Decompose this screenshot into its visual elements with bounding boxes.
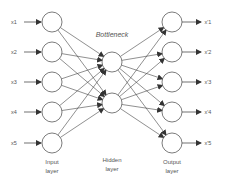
hidden-node: [102, 52, 122, 72]
output-node: [162, 12, 182, 32]
input-node: [42, 133, 62, 153]
input-layer-label-2: layer: [45, 168, 58, 174]
output-node: [162, 133, 182, 153]
hidden-layer-label-2: layer: [105, 166, 118, 172]
output-label: x'3: [205, 79, 212, 85]
hidden-node: [102, 93, 122, 113]
output-node: [162, 42, 182, 62]
output-label: x'5: [205, 140, 212, 146]
hidden-layer-label-1: Hidden: [102, 157, 121, 163]
output-label: x'1: [205, 19, 212, 25]
input-label: x1: [11, 19, 17, 25]
edge: [121, 65, 162, 79]
input-label: x3: [11, 79, 17, 85]
output-label: x'2: [205, 49, 212, 55]
edge: [61, 85, 102, 99]
output-labels: x'1x'2x'3x'4x'5: [205, 19, 212, 146]
input-node: [42, 72, 62, 92]
edge: [61, 65, 102, 79]
output-label: x'4: [205, 109, 212, 115]
edge: [121, 85, 162, 99]
edge: [58, 30, 106, 95]
output-node: [162, 102, 182, 122]
input-label: x4: [11, 109, 17, 115]
edge: [118, 70, 166, 135]
input-layer-label-1: Input: [45, 159, 59, 165]
input-label: x5: [11, 140, 17, 146]
edge: [58, 70, 106, 135]
edge: [122, 104, 162, 110]
output-layer-label-2: layer: [165, 168, 178, 174]
input-node: [42, 102, 62, 122]
input-node: [42, 12, 62, 32]
edge: [62, 54, 102, 61]
autoencoder-diagram: Bottleneck x1x2x3x4x5 x'1x'2x'3x'4x'5 In…: [0, 0, 225, 186]
output-layer-label-1: Output: [163, 159, 181, 165]
input-labels: x1x2x3x4x5: [11, 19, 17, 146]
output-node: [162, 72, 182, 92]
edge: [122, 54, 162, 61]
input-label: x2: [11, 49, 17, 55]
edge: [118, 30, 166, 95]
input-node: [42, 42, 62, 62]
bottleneck-label: Bottleneck: [96, 31, 129, 38]
edge: [62, 104, 102, 110]
